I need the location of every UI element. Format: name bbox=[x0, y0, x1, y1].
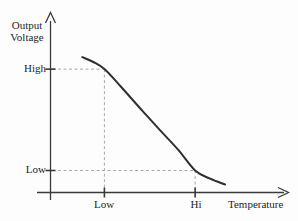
voltage-vs-temperature-figure: Output Voltage High Low Low Hi Temperatu… bbox=[0, 0, 298, 221]
output-voltage-curve bbox=[82, 57, 225, 184]
x-tick-label-low: Low bbox=[88, 198, 120, 210]
y-axis-title: Output Voltage bbox=[6, 19, 48, 43]
x-axis-title: Temperature bbox=[228, 198, 283, 210]
y-tick-label-low: Low bbox=[18, 163, 46, 175]
y-tick-label-high: High bbox=[18, 62, 46, 74]
x-tick-label-hi: Hi bbox=[180, 198, 212, 210]
